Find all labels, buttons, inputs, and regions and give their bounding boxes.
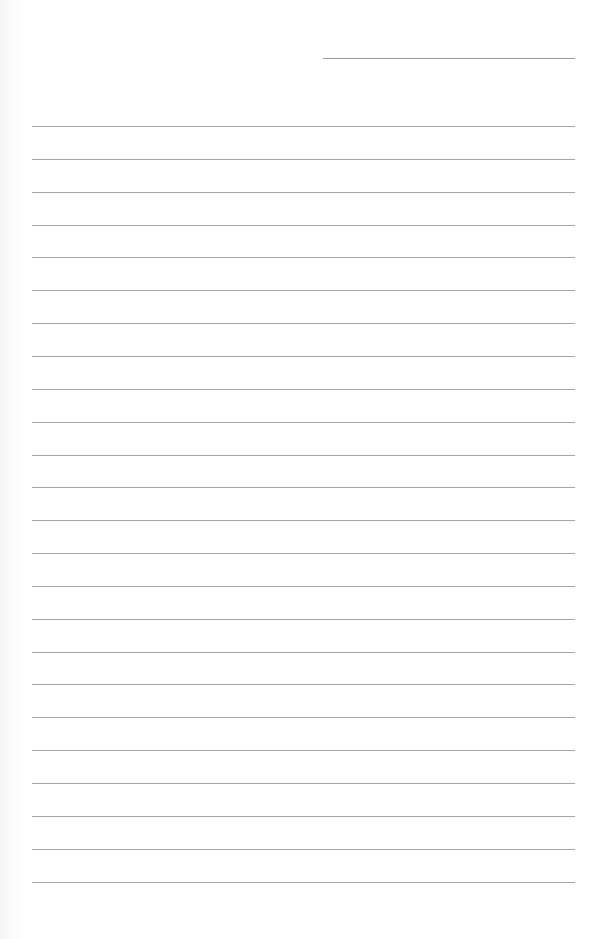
ruled-line	[32, 159, 575, 160]
ruled-line	[32, 717, 575, 718]
ruled-line	[32, 389, 575, 390]
ruled-line	[32, 356, 575, 357]
ruled-line	[32, 257, 575, 258]
ruled-line	[32, 553, 575, 554]
ruled-line	[32, 487, 575, 488]
header-rule	[323, 58, 575, 59]
ruled-line	[32, 455, 575, 456]
ruled-line	[32, 652, 575, 653]
ruled-line	[32, 586, 575, 587]
ruled-line	[32, 520, 575, 521]
ruled-line	[32, 750, 575, 751]
lined-paper-page	[0, 0, 605, 939]
ruled-line	[32, 126, 575, 127]
ruled-line	[32, 192, 575, 193]
ruled-line	[32, 684, 575, 685]
ruled-line	[32, 816, 575, 817]
ruled-line	[32, 422, 575, 423]
ruled-line	[32, 323, 575, 324]
ruled-line	[32, 225, 575, 226]
ruled-line	[32, 849, 575, 850]
ruled-line	[32, 882, 575, 883]
ruled-line	[32, 783, 575, 784]
ruled-line	[32, 619, 575, 620]
ruled-line	[32, 290, 575, 291]
